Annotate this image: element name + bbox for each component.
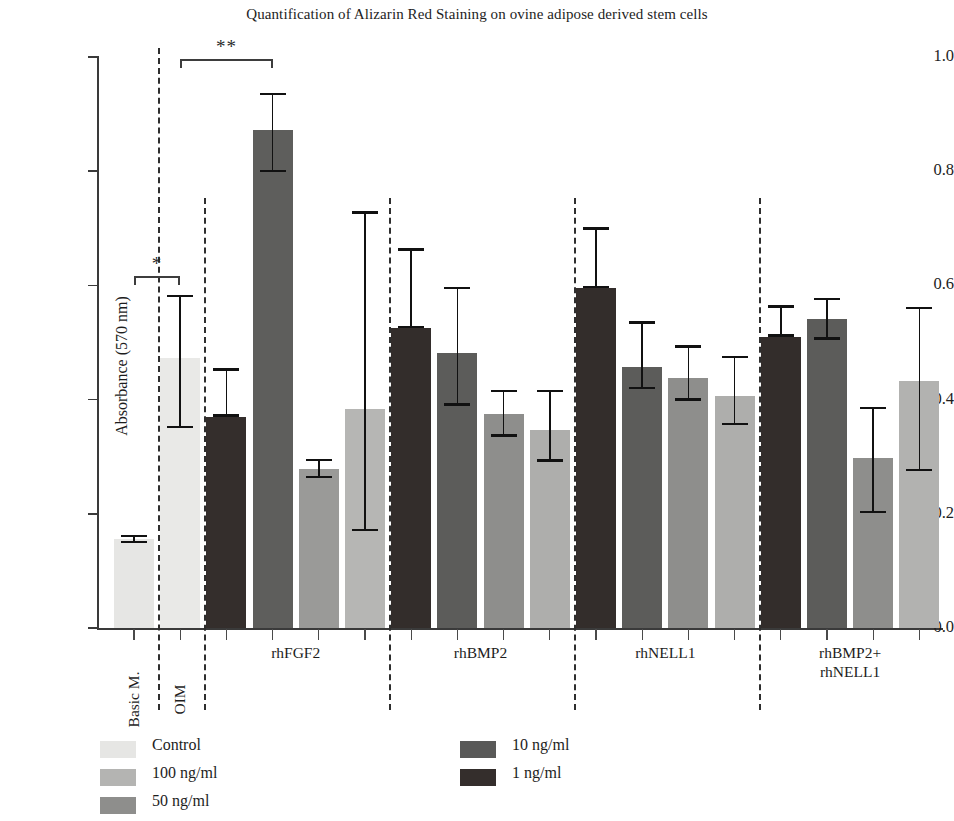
error-bar-cap-bottom (352, 529, 378, 531)
error-bar (576, 227, 616, 288)
y-tick (88, 399, 97, 401)
error-bar-stem (688, 345, 690, 400)
error-bar-cap-top (260, 93, 286, 95)
error-bar-cap-bottom (583, 286, 609, 288)
bar (622, 367, 662, 628)
bar (807, 319, 847, 628)
error-bar-cap-bottom (675, 398, 701, 400)
error-bar (160, 295, 200, 428)
bar (206, 417, 246, 628)
x-tick (873, 629, 874, 640)
bar (576, 288, 616, 628)
bars-layer (98, 57, 943, 628)
y-tick (88, 170, 97, 172)
x-category-label-line: rhBMP2+ (755, 644, 945, 663)
significance-label: * (134, 253, 180, 275)
x-category-label-line: rhNELL1 (570, 644, 760, 663)
error-bar-cap-top (537, 390, 563, 392)
group-divider (158, 48, 160, 710)
x-category-label: rhFGF2 (201, 644, 391, 663)
error-bar-stem (595, 227, 597, 288)
error-bar (437, 287, 477, 406)
error-bar-stem (179, 295, 181, 428)
bar (114, 539, 154, 628)
legend-label: 10 ng/ml (512, 736, 569, 754)
error-bar-cap-top (768, 305, 794, 307)
error-bar-stem (457, 287, 459, 406)
error-bar-cap-top (398, 248, 424, 250)
error-bar-cap-bottom (306, 476, 332, 478)
bar (668, 378, 708, 628)
error-bar-cap-bottom (260, 170, 286, 172)
error-bar-cap-top (306, 459, 332, 461)
x-tick (411, 629, 412, 640)
error-bar (715, 356, 755, 426)
error-bar-cap-top (814, 298, 840, 300)
error-bar-cap-bottom (722, 423, 748, 425)
x-category-label-line: rhNELL1 (755, 663, 945, 682)
error-bar-cap-bottom (860, 511, 886, 513)
bar (715, 396, 755, 628)
error-bar-cap-top (491, 390, 517, 392)
group-divider (204, 198, 206, 710)
error-bar-cap-top (629, 321, 655, 323)
error-bar-cap-top (121, 535, 147, 537)
error-bar (484, 390, 524, 437)
error-bar (391, 248, 431, 328)
error-bar-stem (410, 248, 412, 328)
significance-tick-right (178, 276, 180, 285)
legend-label: 1 ng/ml (512, 764, 561, 782)
x-tick (457, 629, 458, 640)
x-category-label: rhNELL1 (570, 644, 760, 663)
error-bar (299, 459, 339, 478)
x-category-label-line: rhFGF2 (201, 644, 391, 663)
error-bar-cap-bottom (629, 387, 655, 389)
y-tick (88, 285, 97, 287)
error-bar (807, 298, 847, 340)
error-bar-cap-bottom (398, 326, 424, 328)
error-bar-cap-top (860, 407, 886, 409)
error-bar-stem (549, 390, 551, 462)
x-tick (364, 629, 365, 640)
error-bar-cap-bottom (444, 403, 470, 405)
error-bar (668, 345, 708, 400)
x-category-label: rhBMP2 (386, 644, 576, 663)
bar-chart: Quantification of Alizarin Red Staining … (0, 0, 954, 821)
error-bar-cap-bottom (167, 426, 193, 428)
x-tick (780, 629, 781, 640)
legend-swatch (460, 741, 496, 758)
legend-label: 100 ng/ml (152, 764, 217, 782)
error-bar-cap-bottom (121, 541, 147, 543)
legend-label: Control (152, 736, 201, 754)
error-bar-cap-top (167, 295, 193, 297)
group-divider (759, 198, 761, 710)
x-category-label: Basic M. (125, 644, 144, 754)
x-tick (318, 629, 319, 640)
error-bar (853, 407, 893, 513)
x-tick (919, 629, 920, 640)
x-tick (272, 629, 273, 640)
bar (299, 469, 339, 628)
legend-swatch (460, 769, 496, 786)
error-bar-cap-bottom (491, 434, 517, 436)
x-tick (549, 629, 550, 640)
error-bar-stem (826, 298, 828, 340)
significance-bar (180, 59, 272, 61)
error-bar-stem (734, 356, 736, 426)
x-tick (642, 629, 643, 640)
error-bar-cap-top (906, 307, 932, 309)
error-bar-cap-bottom (814, 337, 840, 339)
error-bar-cap-bottom (537, 459, 563, 461)
x-category-label: rhBMP2+rhNELL1 (755, 644, 945, 682)
error-bar-stem (641, 321, 643, 389)
bar (484, 414, 524, 628)
error-bar-stem (226, 368, 228, 417)
x-tick (503, 629, 504, 640)
chart-title: Quantification of Alizarin Red Staining … (0, 6, 954, 23)
x-tick (688, 629, 689, 640)
legend-swatch (100, 741, 136, 758)
error-bar (761, 305, 801, 336)
error-bar-cap-top (352, 211, 378, 213)
error-bar (253, 93, 293, 172)
bar (761, 337, 801, 628)
